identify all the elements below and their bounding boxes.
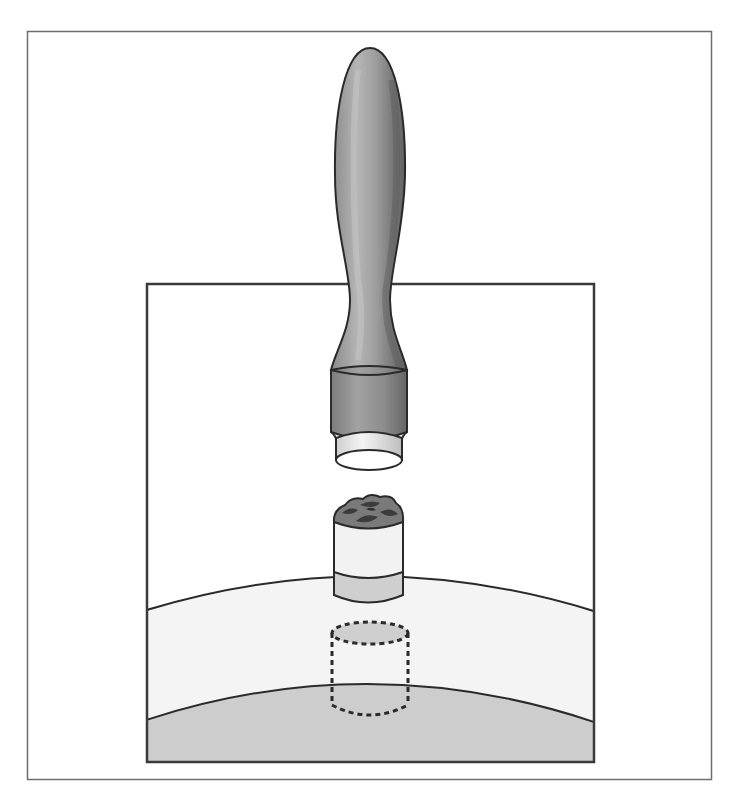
ferrule <box>331 366 407 439</box>
stamp-tool-diagram <box>0 0 735 802</box>
stamp-tool <box>331 48 407 470</box>
punch-tip-opening <box>336 450 402 470</box>
core-sample <box>334 495 403 603</box>
